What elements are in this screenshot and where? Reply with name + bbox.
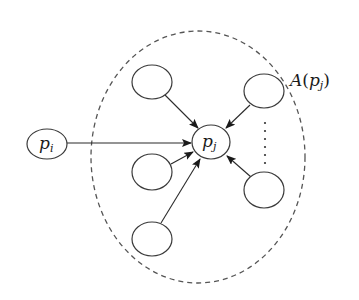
edge-n5-to-pj <box>227 156 251 177</box>
region-label: A(pj) <box>288 70 330 92</box>
node-middle-left <box>132 154 172 190</box>
node-bottom-left <box>132 222 172 256</box>
neighborhood-region <box>91 31 305 283</box>
graph-diagram: pi pj A(pj) <box>0 0 359 300</box>
node-pj: pj <box>192 125 230 159</box>
node-top-right <box>244 74 284 108</box>
edge-n3-to-pj <box>171 152 193 164</box>
edge-n1-to-pj <box>165 95 198 128</box>
edge-n2-to-pj <box>226 105 250 128</box>
node-pi: pi <box>27 129 67 159</box>
node-bottom-right <box>244 172 284 208</box>
node-top-left <box>132 65 172 99</box>
vertical-ellipsis <box>264 122 266 164</box>
